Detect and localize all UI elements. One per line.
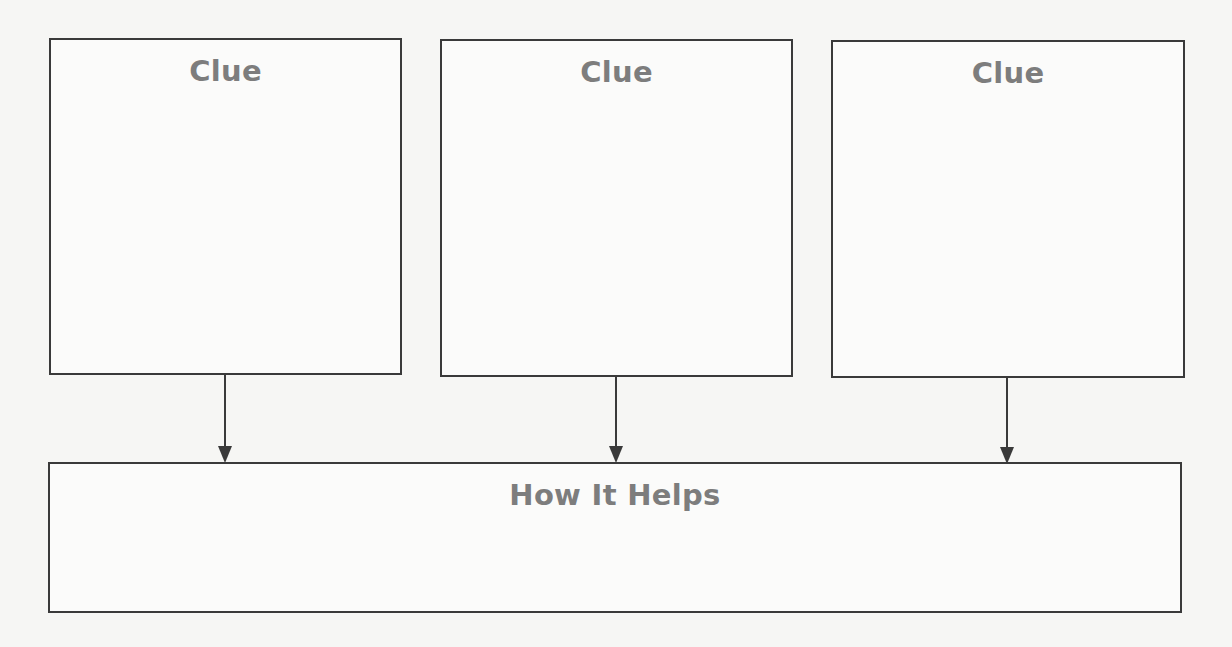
clue-box-3: Clue (831, 40, 1185, 378)
arrow-clue-3-to-result (1000, 377, 1014, 464)
how-it-helps-title: How It Helps (50, 478, 1180, 512)
how-it-helps-box: How It Helps (48, 462, 1182, 613)
clue-box-2: Clue (440, 39, 793, 377)
clue-box-1: Clue (49, 38, 402, 375)
clue-box-2-title: Clue (442, 55, 791, 89)
clue-box-1-title: Clue (51, 54, 400, 88)
arrow-clue-1-to-result (218, 374, 232, 463)
arrow-clue-2-to-result (609, 376, 623, 463)
clue-box-3-title: Clue (833, 56, 1183, 90)
